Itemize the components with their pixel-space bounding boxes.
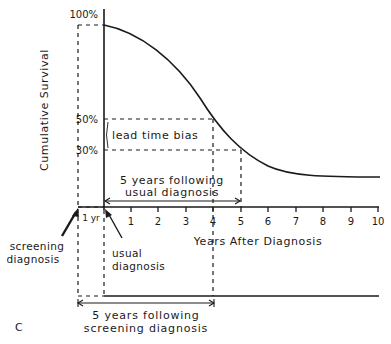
svg-text:8: 8 — [320, 216, 326, 227]
svg-text:3: 3 — [183, 216, 189, 227]
screening-diagnosis-label-2: diagnosis — [6, 253, 59, 265]
screening-span-label-1: 5 years following — [92, 309, 199, 322]
svg-text:5: 5 — [238, 216, 244, 227]
y-axis-label: Cumulative Survival — [38, 49, 51, 171]
one-year-label: 1 yr — [82, 213, 100, 223]
svg-text:10: 10 — [372, 216, 385, 227]
svg-text:50%: 50% — [76, 114, 98, 125]
survival-curve — [104, 25, 380, 177]
y-tick-labels: 100% 50% 30% — [69, 9, 98, 156]
lead-time-bias-diagram: 1 2 3 4 5 6 7 8 9 10 100% 50% 30% Cumula… — [0, 0, 391, 344]
svg-text:30%: 30% — [76, 145, 98, 156]
usual-diagnosis-label-1: usual — [112, 247, 142, 259]
svg-text:100%: 100% — [69, 9, 98, 20]
svg-text:7: 7 — [293, 216, 299, 227]
usual-span-label-2: usual diagnosis — [125, 186, 219, 199]
svg-text:9: 9 — [348, 216, 354, 227]
screening-diagnosis-arrow — [62, 208, 79, 236]
x-tick-labels: 1 2 3 4 5 6 7 8 9 10 — [128, 216, 385, 227]
lead-time-bias-label: lead time bias — [112, 129, 198, 142]
screening-diagnosis-label-1: screening — [10, 240, 65, 252]
x-axis-label: Years After Diagnosis — [193, 235, 323, 248]
panel-label: C — [15, 321, 23, 334]
screening-span-arrow — [78, 299, 214, 307]
dashed-guides — [78, 25, 241, 296]
usual-diagnosis-arrow — [105, 209, 122, 238]
screening-span-label-2: screening diagnosis — [84, 322, 208, 335]
svg-text:2: 2 — [155, 216, 161, 227]
svg-text:6: 6 — [265, 216, 271, 227]
lead-time-bias-brace — [107, 122, 109, 148]
svg-text:1: 1 — [128, 216, 134, 227]
usual-diagnosis-label-2: diagnosis — [112, 260, 165, 272]
